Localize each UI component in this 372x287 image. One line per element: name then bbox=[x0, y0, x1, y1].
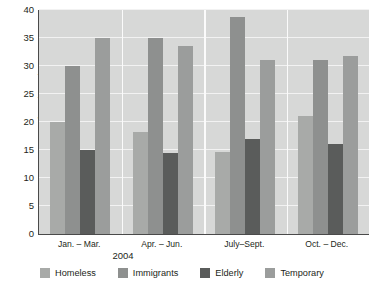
legend-swatch-icon bbox=[200, 268, 210, 278]
y-tick-label: 25 bbox=[8, 89, 34, 99]
bar-group bbox=[39, 10, 122, 234]
clipped-chart-title bbox=[0, 0, 372, 1]
y-tick-label: 0 bbox=[8, 229, 34, 239]
bar[interactable] bbox=[65, 66, 80, 234]
bar-group-bars bbox=[204, 10, 287, 234]
legend-item[interactable]: Elderly bbox=[200, 268, 243, 278]
bar[interactable] bbox=[313, 60, 328, 234]
plot-area bbox=[38, 10, 369, 235]
bar[interactable] bbox=[178, 46, 193, 234]
legend-item[interactable]: Homeless bbox=[40, 268, 96, 278]
bar[interactable] bbox=[328, 144, 343, 234]
y-tick-label: 40 bbox=[8, 5, 34, 15]
bar[interactable] bbox=[80, 150, 95, 234]
bar-group bbox=[204, 10, 287, 234]
legend-swatch-icon bbox=[265, 268, 275, 278]
y-tick-label: 15 bbox=[8, 145, 34, 155]
bar-group-bars bbox=[122, 10, 205, 234]
legend: HomelessImmigrantsElderlyTemporary bbox=[40, 265, 370, 281]
bar[interactable] bbox=[215, 152, 230, 234]
bar[interactable] bbox=[230, 17, 245, 234]
bar-chart: Percentage of Total Number 0510152025303… bbox=[0, 0, 372, 287]
y-tick-label: 30 bbox=[8, 61, 34, 71]
bar[interactable] bbox=[298, 116, 313, 234]
y-tick-label: 5 bbox=[8, 201, 34, 211]
legend-label: Temporary bbox=[280, 268, 323, 278]
bar[interactable] bbox=[260, 60, 275, 234]
bar-group-bars bbox=[39, 10, 122, 234]
legend-item[interactable]: Immigrants bbox=[118, 268, 178, 278]
legend-label: Homeless bbox=[55, 268, 96, 278]
legend-label: Immigrants bbox=[133, 268, 178, 278]
bar[interactable] bbox=[245, 139, 260, 234]
legend-swatch-icon bbox=[40, 268, 50, 278]
bar[interactable] bbox=[148, 38, 163, 234]
x-tick-label: July–Sept. bbox=[203, 238, 286, 252]
legend-swatch-icon bbox=[118, 268, 128, 278]
y-tick-label: 35 bbox=[8, 33, 34, 43]
y-tick-label: 20 bbox=[8, 117, 34, 127]
bar[interactable] bbox=[50, 122, 65, 234]
bar-groups bbox=[39, 10, 369, 234]
bar[interactable] bbox=[163, 153, 178, 234]
legend-label: Elderly bbox=[215, 268, 243, 278]
y-tick-label: 10 bbox=[8, 173, 34, 183]
x-axis-title: 2004 bbox=[38, 250, 208, 261]
y-axis-tick-labels: 0510152025303540 bbox=[8, 10, 34, 234]
bar[interactable] bbox=[95, 38, 110, 234]
legend-item[interactable]: Temporary bbox=[265, 268, 323, 278]
bar-group bbox=[122, 10, 205, 234]
bar-group bbox=[287, 10, 370, 234]
x-tick-label: Oct. – Dec. bbox=[286, 238, 369, 252]
bar-group-bars bbox=[287, 10, 370, 234]
bar[interactable] bbox=[343, 56, 358, 234]
bar[interactable] bbox=[133, 132, 148, 234]
